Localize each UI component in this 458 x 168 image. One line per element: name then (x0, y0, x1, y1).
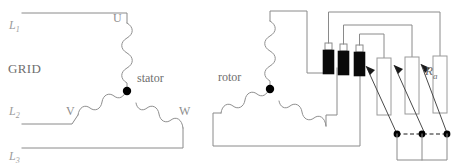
slip-ring-2-body (338, 51, 349, 75)
stator-star-point-node (123, 87, 131, 95)
phase-label-l1: L1 (9, 19, 20, 34)
stator-coil-v (78, 91, 126, 115)
slip-ring-2-cap (340, 44, 347, 51)
slip-ring-assembly (323, 43, 365, 76)
slip-ring-3-cap (356, 45, 363, 52)
slip-ring-2 (338, 44, 349, 75)
slip-ring-3 (354, 45, 365, 76)
rotor-coil-2 (221, 89, 269, 113)
stator-terminal-label-v: V (66, 105, 75, 117)
rotor-coil-1 (265, 21, 276, 86)
phase-label-l3: L3 (9, 150, 20, 165)
slip-ring-1 (323, 43, 334, 74)
stator-terminal-label-u: U (113, 12, 122, 24)
rotor-label: rotor (218, 71, 241, 83)
rotor-lead-2 (326, 68, 337, 126)
supply-line-l3 (22, 128, 183, 148)
rotor-star-point-node (266, 85, 274, 93)
supply-line-l1 (22, 13, 127, 23)
stator-label: stator (137, 72, 164, 84)
stator-coil-u (122, 23, 133, 88)
slip-ring-1-body (323, 50, 334, 74)
slip-ring-3-body (354, 52, 365, 76)
stator-windings (78, 23, 183, 128)
rotor-coil-3 (279, 101, 326, 126)
stator-coil-w (136, 103, 183, 128)
common-tie-bar (394, 131, 451, 160)
resistor-bank-label: Ra (425, 64, 437, 81)
phase-label-l2: L2 (9, 105, 20, 120)
slip-ring-1-cap (325, 43, 332, 50)
rotor-lead-1 (270, 11, 329, 73)
circuit-diagram: L1 L2 L3 GRID U V W stator rotor Ra (0, 0, 458, 168)
diagram-canvas (0, 0, 458, 168)
stator-terminal-label-w: W (179, 105, 190, 117)
grid-label: GRID (8, 62, 41, 75)
